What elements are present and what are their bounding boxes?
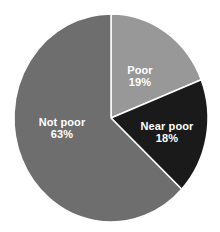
pie-label-poor-name: Poor [127, 64, 152, 76]
pie-label-poor-value: 19% [127, 76, 152, 88]
pie-label-not-poor-value: 63% [39, 128, 86, 140]
pie-label-not-poor: Not poor 63% [39, 116, 86, 140]
pie-label-not-poor-name: Not poor [39, 116, 86, 128]
pie-label-poor: Poor 19% [127, 64, 152, 88]
pie-label-near-poor-value: 18% [141, 132, 194, 144]
pie-chart-figure: Poor 19% Near poor 18% Not poor 63% [0, 0, 220, 232]
pie-label-near-poor-name: Near poor [141, 120, 194, 132]
pie-label-near-poor: Near poor 18% [141, 120, 194, 144]
pie-chart-canvas [0, 0, 220, 232]
